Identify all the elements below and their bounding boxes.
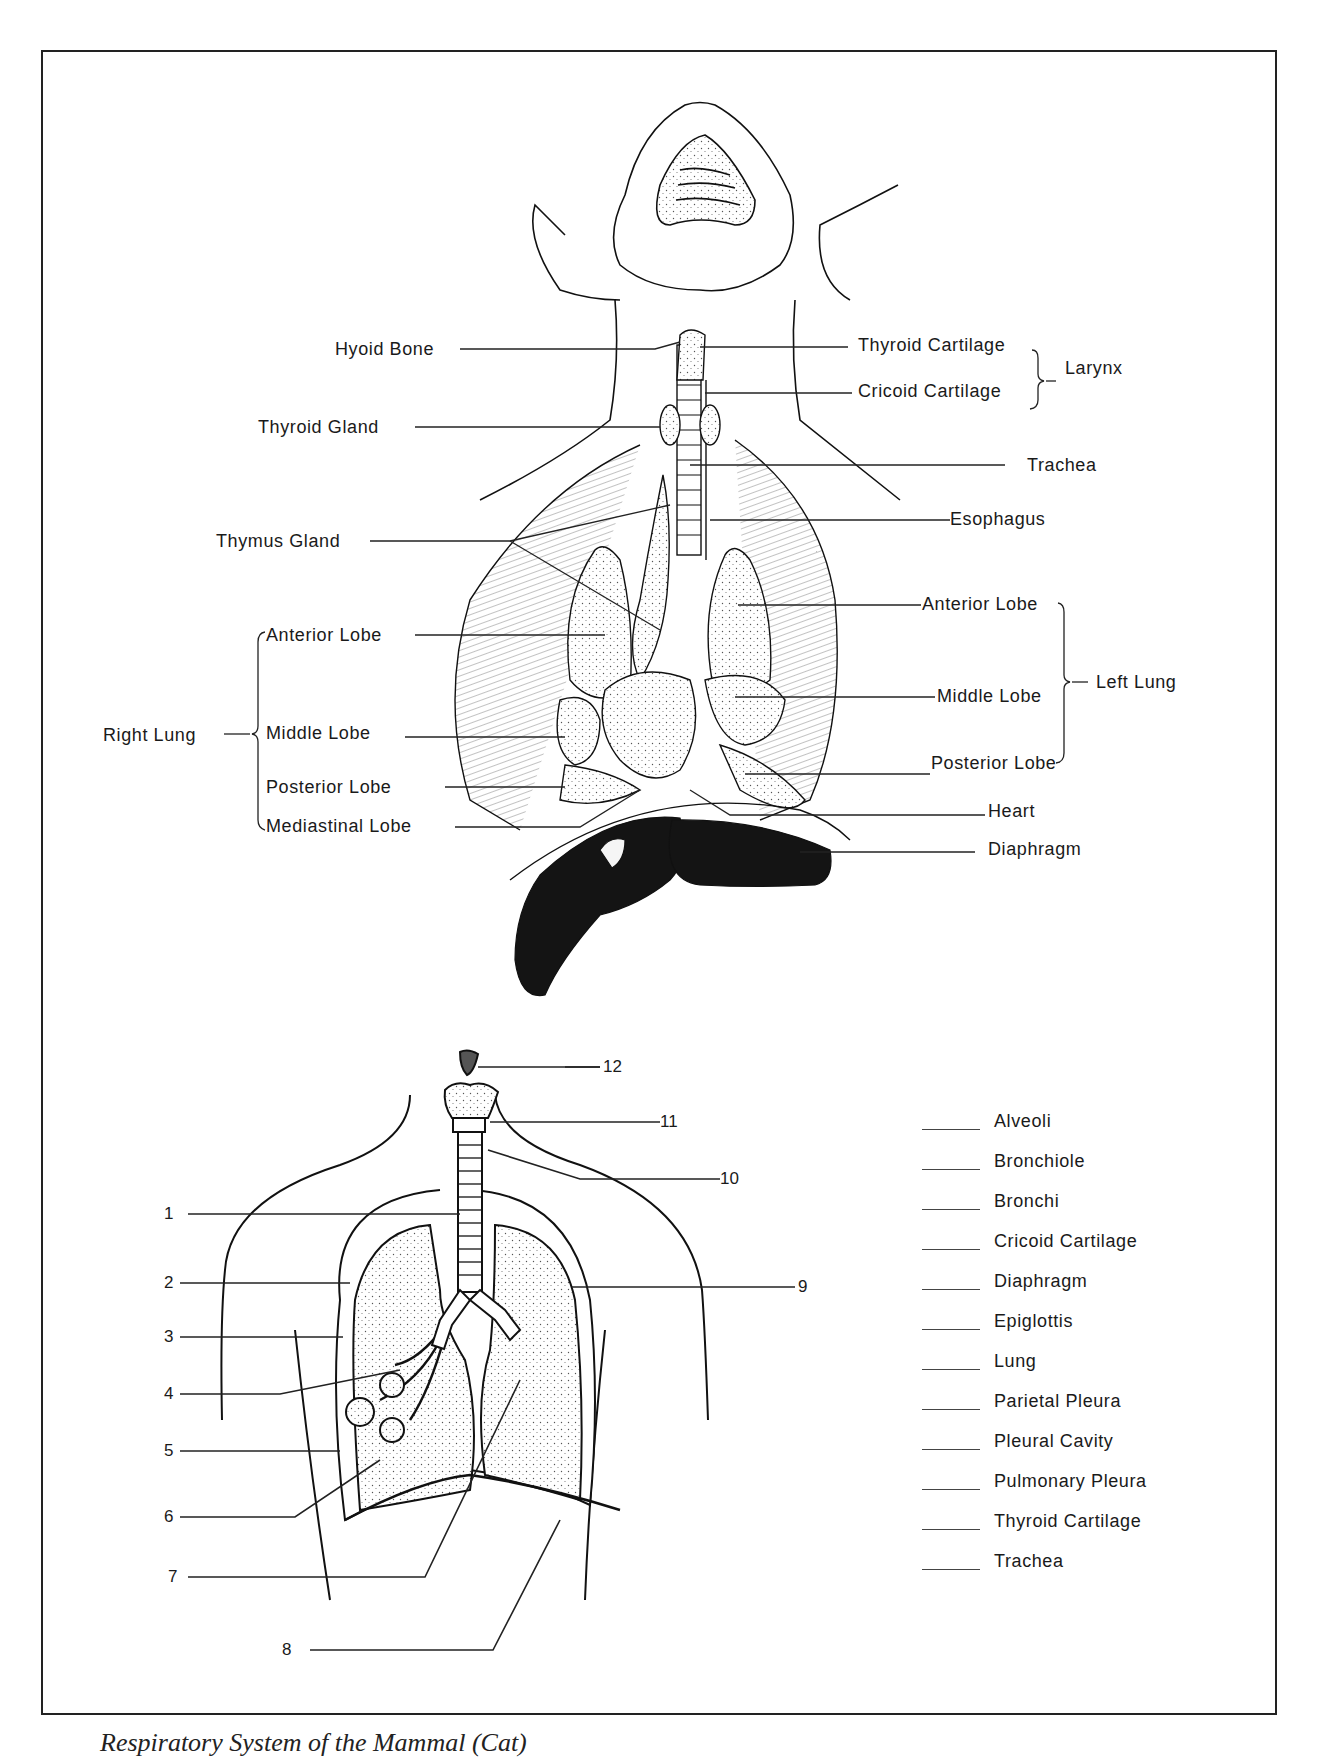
- answer-blank[interactable]: [922, 1555, 980, 1570]
- answer-blank[interactable]: [922, 1435, 980, 1450]
- label-thymus-gland: Thymus Gland: [216, 532, 340, 550]
- label-left-lung: Left Lung: [1096, 673, 1176, 691]
- label-right-posterior-lobe: Posterior Lobe: [266, 778, 391, 796]
- answer-blank[interactable]: [922, 1115, 980, 1130]
- label-mediastinal-lobe: Mediastinal Lobe: [266, 817, 412, 835]
- answer-blank[interactable]: [922, 1355, 980, 1370]
- label-esophagus: Esophagus: [950, 510, 1045, 528]
- label-left-middle-lobe: Middle Lobe: [937, 687, 1042, 705]
- label-heart: Heart: [988, 802, 1035, 820]
- answer-key-item[interactable]: Pulmonary Pleura: [922, 1468, 1182, 1490]
- answer-blank[interactable]: [922, 1195, 980, 1210]
- liver: [515, 817, 831, 995]
- label-trachea: Trachea: [1027, 456, 1097, 474]
- label-hyoid-bone: Hyoid Bone: [335, 340, 434, 358]
- answer-key-item[interactable]: Bronchi: [922, 1188, 1182, 1210]
- answer-blank[interactable]: [922, 1155, 980, 1170]
- label-left-anterior-lobe: Anterior Lobe: [922, 595, 1038, 613]
- number-8: 8: [282, 1641, 291, 1658]
- answer-key-item[interactable]: Parietal Pleura: [922, 1388, 1182, 1410]
- answer-blank[interactable]: [922, 1395, 980, 1410]
- number-6: 6: [164, 1508, 173, 1525]
- label-right-lung: Right Lung: [103, 726, 196, 744]
- number-4: 4: [164, 1385, 173, 1402]
- label-left-posterior-lobe: Posterior Lobe: [931, 754, 1056, 772]
- number-1: 1: [164, 1205, 173, 1222]
- number-3: 3: [164, 1328, 173, 1345]
- number-7: 7: [168, 1568, 177, 1585]
- answer-blank[interactable]: [922, 1475, 980, 1490]
- answer-blank[interactable]: [922, 1315, 980, 1330]
- number-9: 9: [798, 1278, 807, 1295]
- figure-caption: Respiratory System of the Mammal (Cat): [100, 1728, 527, 1758]
- number-12: 12: [603, 1058, 622, 1075]
- label-right-middle-lobe: Middle Lobe: [266, 724, 371, 742]
- answer-blank[interactable]: [922, 1275, 980, 1290]
- answer-blank[interactable]: [922, 1235, 980, 1250]
- answer-key-item[interactable]: Pleural Cavity: [922, 1428, 1182, 1450]
- label-diaphragm: Diaphragm: [988, 840, 1081, 858]
- answer-key-item[interactable]: Cricoid Cartilage: [922, 1228, 1182, 1250]
- label-cricoid-cartilage: Cricoid Cartilage: [858, 382, 1001, 400]
- answer-key-item[interactable]: Alveoli: [922, 1108, 1182, 1130]
- number-11: 11: [660, 1113, 678, 1130]
- number-10: 10: [720, 1170, 739, 1187]
- label-larynx: Larynx: [1065, 359, 1123, 377]
- number-5: 5: [164, 1442, 173, 1459]
- answer-key-item[interactable]: Trachea: [922, 1548, 1182, 1570]
- answer-key-item[interactable]: Diaphragm: [922, 1268, 1182, 1290]
- label-thyroid-gland: Thyroid Gland: [258, 418, 379, 436]
- label-right-anterior-lobe: Anterior Lobe: [266, 626, 382, 644]
- answer-blank[interactable]: [922, 1515, 980, 1530]
- number-2: 2: [164, 1274, 173, 1291]
- answer-key-item[interactable]: Thyroid Cartilage: [922, 1508, 1182, 1530]
- answer-key-item[interactable]: Lung: [922, 1348, 1182, 1370]
- answer-key-item[interactable]: Bronchiole: [922, 1148, 1182, 1170]
- answer-key-item[interactable]: Epiglottis: [922, 1308, 1182, 1330]
- label-thyroid-cartilage: Thyroid Cartilage: [858, 336, 1005, 354]
